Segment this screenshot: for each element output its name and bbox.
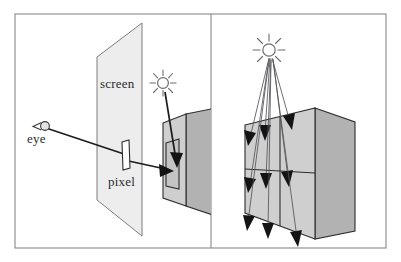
label-eye: eye bbox=[27, 131, 46, 146]
sun-disc bbox=[158, 78, 169, 89]
figure-root: screen pixel eye bbox=[0, 0, 401, 262]
diagram-canvas: screen pixel eye bbox=[0, 0, 401, 262]
label-screen: screen bbox=[100, 76, 135, 91]
pixel-rect bbox=[122, 140, 130, 170]
eye-disc bbox=[41, 122, 50, 131]
sun-disc bbox=[263, 44, 275, 56]
sun-icon-right-panel bbox=[253, 34, 285, 66]
box-right-face-right-panel bbox=[315, 108, 355, 239]
label-pixel: pixel bbox=[108, 174, 135, 189]
sun-icon bbox=[150, 70, 176, 96]
screen-plane bbox=[97, 23, 142, 236]
